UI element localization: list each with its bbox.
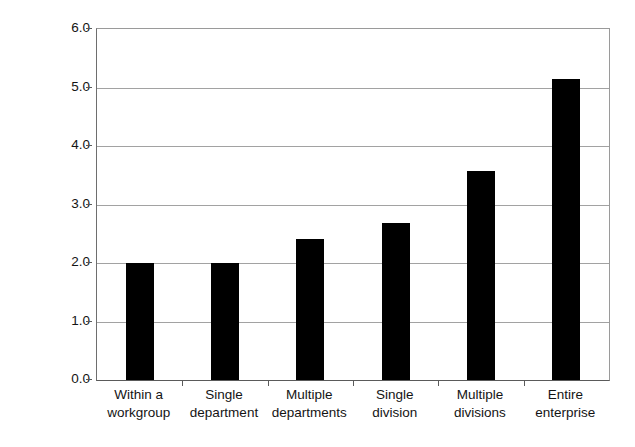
x-category-label: Singledivision xyxy=(352,386,437,421)
x-category-label: Multipledivisions xyxy=(437,386,522,421)
y-tick-label: 5.0 xyxy=(44,80,90,94)
y-tick-mark xyxy=(86,262,92,263)
gridline xyxy=(97,88,609,89)
bar xyxy=(296,239,324,380)
y-tick-label: 2.0 xyxy=(44,255,90,269)
y-tick-label: 1.0 xyxy=(44,314,90,328)
y-tick-mark xyxy=(86,87,92,88)
x-category-label-line: Entire xyxy=(523,386,608,404)
gridline xyxy=(97,146,609,147)
x-category-label: Within aworkgroup xyxy=(96,386,181,421)
y-tick-label: 6.0 xyxy=(44,21,90,35)
x-axis-labels: Within aworkgroupSingledepartmentMultipl… xyxy=(96,386,608,436)
x-category-label-line: departments xyxy=(267,404,352,422)
x-category-label-line: enterprise xyxy=(523,404,608,422)
gridline xyxy=(97,263,609,264)
x-category-label-line: department xyxy=(181,404,266,422)
y-tick-mark xyxy=(86,321,92,322)
x-category-label-line: divisions xyxy=(437,404,522,422)
y-tick-mark xyxy=(86,204,92,205)
x-category-label-line: workgroup xyxy=(96,404,181,422)
x-category-label-line: Within a xyxy=(96,386,181,404)
y-tick-label: 3.0 xyxy=(44,197,90,211)
y-tick-label: 0.0 xyxy=(44,372,90,386)
y-tick-mark xyxy=(86,28,92,29)
plot-area xyxy=(96,28,610,381)
x-category-label: Singledepartment xyxy=(181,386,266,421)
bar xyxy=(552,79,580,380)
bar-chart-figure: Average FTE dedicated to change manageme… xyxy=(0,0,635,447)
x-category-label-line: Single xyxy=(352,386,437,404)
y-tick-mark xyxy=(86,379,92,380)
gridline xyxy=(97,322,609,323)
y-tick-mark xyxy=(86,145,92,146)
y-axis-ticks: 0.01.02.03.04.05.06.0 xyxy=(34,0,90,447)
bar xyxy=(211,263,239,380)
x-category-label-line: Multiple xyxy=(267,386,352,404)
bar xyxy=(126,263,154,380)
x-category-label-line: Multiple xyxy=(437,386,522,404)
x-category-label: Entireenterprise xyxy=(523,386,608,421)
x-category-label: Multipledepartments xyxy=(267,386,352,421)
x-category-label-line: division xyxy=(352,404,437,422)
y-tick-label: 4.0 xyxy=(44,138,90,152)
x-category-label-line: Single xyxy=(181,386,266,404)
bar xyxy=(382,223,410,380)
bar xyxy=(467,171,495,380)
gridline xyxy=(97,205,609,206)
